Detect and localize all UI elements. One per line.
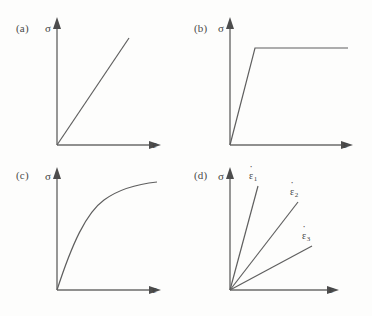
panel-letter-a: (a) [16,22,29,34]
panel-letter-b: (b) [194,22,207,34]
y-axis-arrowhead-icon [226,17,234,29]
panel-letter-d: (d) [194,169,207,181]
panel-d-plot [186,158,372,316]
x-axis-label-epsilon: ε [343,138,348,150]
panel-c-plot [0,158,186,316]
stress-strain-figure: (a) σ ε (b) σ ε (c) σ ε [0,0,372,316]
ray-strain-rate-1 [230,186,258,290]
curve-strain-hardening [57,182,157,290]
x-axis-label-epsilon: ε [329,283,334,295]
strain-rate-label-1: ε1 [249,170,257,181]
y-axis-label-sigma: σ [218,170,224,182]
panel-linear-elastic: (a) σ ε [0,0,186,158]
y-axis-label-sigma: σ [45,22,51,34]
strain-rate-label-3: ε3 [302,230,310,241]
strain-rate-subscript-1: 1 [253,175,257,183]
panel-b-plot [186,0,372,158]
x-axis-label-epsilon: ε [152,138,157,150]
curve-elastic-perfectly-plastic [230,48,348,145]
panel-strain-rate-dependent: (d) σ ε ε1 ε2 ε3 [186,158,372,316]
y-axis-arrowhead-icon [226,167,234,179]
y-axis-arrowhead-icon [53,167,61,179]
ray-strain-rate-3 [230,246,312,290]
strain-rate-subscript-2: 2 [294,191,298,199]
x-axis-label-epsilon: ε [152,283,157,295]
curve-linear-elastic [57,38,129,145]
y-axis-arrowhead-icon [53,17,61,29]
panel-strain-hardening: (c) σ ε [0,158,186,316]
panel-letter-c: (c) [16,169,29,181]
y-axis-label-sigma: σ [218,22,224,34]
ray-strain-rate-2 [230,202,298,290]
panel-elastic-perfectly-plastic: (b) σ ε [186,0,372,158]
strain-rate-label-2: ε2 [290,186,298,197]
strain-rate-subscript-3: 3 [306,235,310,243]
y-axis-label-sigma: σ [45,170,51,182]
